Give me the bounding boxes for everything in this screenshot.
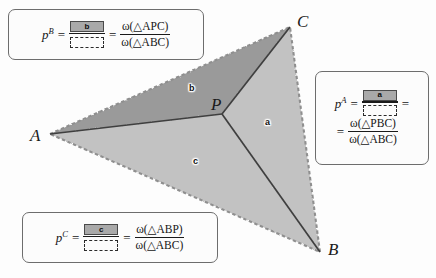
formula-pA-line1: pA = a = <box>335 90 409 116</box>
formula-pB-equals2: = <box>109 28 116 41</box>
figure-root: A B C P a b c pB = b = ω(△APC) ω(△ABC) <box>0 0 436 278</box>
formula-pB-numerator-box: b <box>70 21 104 32</box>
formula-pC-denominator-box <box>84 240 118 251</box>
vertex-label-C: C <box>297 13 308 30</box>
formula-pB-omega-denominator: ω(△ABC) <box>120 36 170 49</box>
formula-pC-box-fraction: c <box>83 224 119 250</box>
formula-pA-equals: = <box>351 97 358 110</box>
formula-pC-omega-denominator: ω(△ABC) <box>135 239 185 252</box>
formula-box-pC: pC = c = ω(△ABP) ω(△ABC) <box>22 212 218 263</box>
formula-pA-equals2: = <box>402 97 409 110</box>
formula-pC-omega-fraction: ω(△ABP) ω(△ABC) <box>135 223 185 252</box>
region-label-c: c <box>193 157 198 166</box>
formula-pA-equals3: = <box>337 125 344 138</box>
formula-pB-omega-fraction: ω(△APC) ω(△ABC) <box>120 20 170 49</box>
formula-pA-omega-denominator: ω(△ABC) <box>348 133 398 146</box>
vertex-label-A: A <box>30 127 40 144</box>
vertex-label-B: B <box>328 241 338 258</box>
formula-pB-numerator-label: b <box>85 23 90 31</box>
formula-pA-omega-bar <box>348 131 398 132</box>
formula-pC-omega-bar <box>135 237 185 238</box>
region-label-a: a <box>265 118 270 127</box>
formula-pC-omega-numerator: ω(△ABP) <box>135 223 183 236</box>
formula-pA-numerator-label: a <box>378 91 382 99</box>
formula-pC-numerator-box: c <box>84 224 118 235</box>
region-label-b: b <box>189 84 195 93</box>
formula-pC-equals: = <box>72 231 79 244</box>
formula-pA-line2: = ω(△PBC) ω(△ABC) <box>337 117 398 146</box>
formula-pA-fraction-bar <box>362 101 398 102</box>
formula-pC-numerator-label: c <box>99 226 103 234</box>
formula-pB-omega-bar <box>120 34 170 35</box>
formula-pB-equals: = <box>58 28 65 41</box>
formula-pB-fraction-bar <box>69 33 105 34</box>
formula-pA-omega-numerator: ω(△PBC) <box>349 117 397 130</box>
formula-box-pA: pA = a = = ω(△PBC) ω(△AB <box>315 71 429 165</box>
vertex-label-P: P <box>211 96 221 113</box>
formula-pA-box-fraction: a <box>362 90 398 116</box>
formula-pB-box-fraction: b <box>69 21 105 47</box>
formula-pC-symbol: pC <box>56 231 68 244</box>
formula-pB-symbol: pB <box>42 28 54 41</box>
formula-pA-omega-fraction: ω(△PBC) ω(△ABC) <box>348 117 398 146</box>
formula-pA-numerator-box: a <box>363 90 397 101</box>
formula-pC-equals2: = <box>123 231 130 244</box>
formula-pA-denominator-box <box>363 105 397 116</box>
formula-pB-omega-numerator: ω(△APC) <box>121 20 169 33</box>
formula-pB-denominator-box <box>70 37 104 48</box>
formula-pA-symbol: pA <box>335 97 347 110</box>
formula-box-pB: pB = b = ω(△APC) ω(△ABC) <box>8 9 204 60</box>
formula-pC-fraction-bar <box>83 236 119 237</box>
